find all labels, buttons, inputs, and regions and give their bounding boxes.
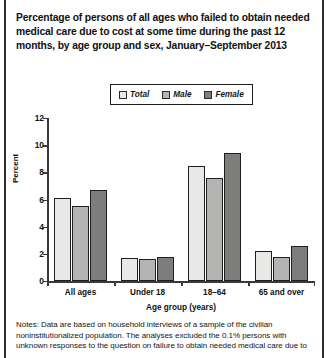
- x-axis-tick-mark: [181, 281, 183, 286]
- chart-legend: Total Male Female: [110, 84, 253, 105]
- bar-female[interactable]: [291, 246, 308, 281]
- bar-group: [181, 118, 248, 281]
- y-axis-tick-label: 8: [39, 167, 44, 177]
- x-axis-title: Age group (years): [47, 303, 315, 312]
- legend-swatch-female: [204, 91, 212, 99]
- y-axis-tick-label: 4: [39, 222, 44, 232]
- page-rule-right: [322, 0, 324, 358]
- y-axis-tick-label: 6: [39, 195, 44, 205]
- y-axis-tick-label: 12: [35, 113, 44, 123]
- bar-total[interactable]: [121, 258, 138, 281]
- legend-swatch-male: [162, 91, 170, 99]
- bar-female[interactable]: [224, 153, 241, 281]
- y-axis-tick-label: 10: [35, 140, 44, 150]
- x-axis-label-0: All ages: [47, 288, 114, 297]
- x-axis-tick-mark: [314, 281, 316, 286]
- figure-panel: Percentage of persons of all ages who fa…: [0, 0, 328, 358]
- legend-item-total: Total: [119, 90, 149, 99]
- bar-total[interactable]: [255, 251, 272, 281]
- legend-item-male: Male: [162, 90, 191, 99]
- bar-female[interactable]: [157, 257, 174, 281]
- y-axis-tick-label: 2: [39, 249, 44, 259]
- chart-title: Percentage of persons of all ages who fa…: [16, 11, 312, 54]
- x-axis-label-3: 65 and over: [248, 288, 315, 297]
- x-axis-category-labels: All agesUnder 1818–6465 and over: [47, 288, 315, 297]
- bar-group: [47, 118, 114, 281]
- bar-group: [248, 118, 315, 281]
- bar-male[interactable]: [72, 206, 89, 281]
- bar-group: [114, 118, 181, 281]
- x-axis-tick-mark: [47, 281, 49, 286]
- legend-label-female: Female: [215, 90, 243, 99]
- x-axis-label-2: 18–64: [181, 288, 248, 297]
- bar-male[interactable]: [139, 259, 156, 281]
- x-axis-tick-mark: [248, 281, 250, 286]
- bar-male[interactable]: [273, 257, 290, 281]
- legend-label-male: Male: [173, 90, 191, 99]
- y-axis-title: Percent: [11, 154, 20, 183]
- bar-total[interactable]: [54, 198, 71, 281]
- bar-total[interactable]: [188, 166, 205, 281]
- bar-female[interactable]: [90, 190, 107, 281]
- x-axis-tick-mark: [114, 281, 116, 286]
- page-rule-left: [4, 0, 6, 358]
- legend-swatch-total: [119, 91, 127, 99]
- legend-item-female: Female: [204, 90, 243, 99]
- x-axis-label-1: Under 18: [114, 288, 181, 297]
- y-axis-tick-label: 0: [39, 276, 44, 286]
- legend-label-total: Total: [130, 90, 149, 99]
- chart-notes: Notes: Data are based on household inter…: [16, 320, 316, 352]
- bar-groups: [47, 118, 315, 281]
- bar-male[interactable]: [206, 178, 223, 281]
